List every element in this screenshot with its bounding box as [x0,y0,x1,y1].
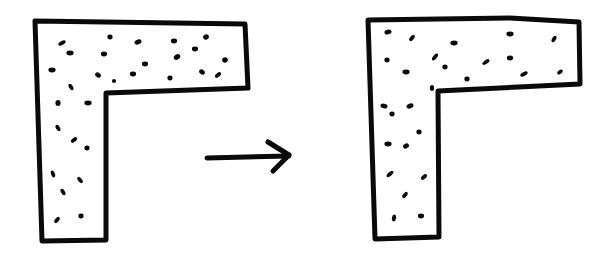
particle-dot [171,39,177,44]
particle-dot [430,85,434,91]
particle-dot [416,130,421,135]
diagram-svg [0,0,610,262]
particle-dot [167,76,172,81]
particle-dot [66,51,73,56]
particle-dot [107,35,112,40]
particle-dot [442,65,447,70]
diagram-canvas [0,0,610,262]
particle-dot [48,68,55,73]
particle-dot [84,101,91,106]
particle-dot [84,146,89,151]
transition-arrow [207,142,289,171]
particle-dot [507,56,513,61]
arrow-shaft [207,156,289,158]
particle-dot [112,79,116,83]
particle-dot [142,62,148,67]
panel-before [35,21,248,241]
particle-dot [78,214,83,219]
panel-after [368,18,580,239]
particle-dot [506,32,513,37]
particle-dot [464,77,469,82]
l-shape-outline-after [368,18,580,239]
particle-dot [384,58,389,63]
particle-dot [55,100,60,106]
particle-dot [402,70,409,75]
particle-dot [450,41,457,46]
particle-dot [418,214,424,219]
particle-dot [101,52,107,57]
particle-dot [384,142,391,147]
particle-dot [192,47,198,52]
particle-dot [130,72,136,77]
particle-dot [389,112,394,117]
